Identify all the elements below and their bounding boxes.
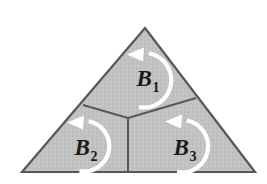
figure-container: B1 B2 B3: [0, 0, 267, 184]
triangle-diagram: B1 B2 B3: [0, 0, 267, 184]
region-label-b3-subscript: 3: [189, 149, 196, 164]
outer-triangle: [22, 28, 255, 172]
region-label-b2-subscript: 2: [90, 149, 97, 164]
region-label-b1-subscript: 1: [152, 80, 159, 95]
